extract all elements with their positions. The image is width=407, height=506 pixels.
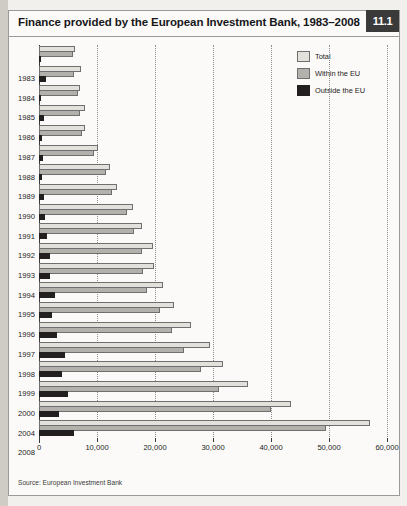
bar-within <box>39 150 94 156</box>
y-axis-label: 1985 <box>9 113 35 122</box>
x-axis-tick-label: 20,000 <box>143 443 166 452</box>
figure-panel: Finance provided by the European Investm… <box>0 0 407 506</box>
bar-outside <box>39 430 74 436</box>
bar-within <box>39 51 73 57</box>
y-axis-label: 1996 <box>9 330 35 339</box>
y-axis-label: 1983 <box>9 74 35 83</box>
page-spine <box>0 0 8 506</box>
source-note: Source: European Investment Bank <box>18 479 122 486</box>
bar-outside <box>39 115 44 121</box>
y-axis-label: 1997 <box>9 350 35 359</box>
bar-within <box>39 169 106 175</box>
bar-group <box>39 204 387 224</box>
x-axis-tick-mark <box>213 438 214 442</box>
bar-outside <box>39 352 65 358</box>
bar-outside <box>39 174 42 180</box>
bar-within <box>39 406 271 412</box>
chart-title: Finance provided by the European Investm… <box>18 16 360 28</box>
bar-outside <box>39 233 47 239</box>
x-axis-tick-label: 60,000 <box>375 443 398 452</box>
bar-group <box>39 105 387 125</box>
bar-group <box>39 322 387 342</box>
bar-outside <box>39 56 41 62</box>
x-axis-tick-label: 50,000 <box>317 443 340 452</box>
bar-group <box>39 302 387 322</box>
y-axis-label: 1989 <box>9 192 35 201</box>
x-axis-tick-mark <box>97 438 98 442</box>
x-axis-ticks: 010,00020,00030,00040,00050,00060,000 <box>39 443 387 457</box>
bar-within <box>39 228 134 234</box>
bar-group <box>39 401 387 421</box>
bar-within <box>39 307 160 313</box>
bar-group <box>39 223 387 243</box>
x-axis-tick-mark <box>387 438 388 442</box>
figure-number-badge: 11.1 <box>366 10 399 32</box>
bar-within <box>39 366 201 372</box>
bar-within <box>39 130 82 136</box>
bar-outside <box>39 155 43 161</box>
bar-group <box>39 164 387 184</box>
bar-group <box>39 85 387 105</box>
chart-card: Finance provided by the European Investm… <box>8 10 400 496</box>
bar-outside <box>39 411 59 417</box>
bar-outside <box>39 273 50 279</box>
bar-group <box>39 66 387 86</box>
bar-group <box>39 381 387 401</box>
y-axis-label: 1998 <box>9 370 35 379</box>
x-axis-tick-mark <box>39 438 40 442</box>
y-axis-label: 2008 <box>9 448 35 457</box>
x-axis-tick-mark <box>155 438 156 442</box>
bar-within <box>39 327 172 333</box>
chart-header: Finance provided by the European Investm… <box>9 11 399 37</box>
plot-area: TotalWithin the EUOutside the EU 010,000… <box>9 37 401 466</box>
y-axis-label: 1984 <box>9 94 35 103</box>
x-axis-tick-label: 30,000 <box>201 443 224 452</box>
y-axis-label: 1995 <box>9 310 35 319</box>
y-axis-label: 1987 <box>9 153 35 162</box>
bar-outside <box>39 253 50 259</box>
axis-area <box>39 45 387 439</box>
bar-group <box>39 125 387 145</box>
x-axis-tick-label: 10,000 <box>85 443 108 452</box>
gridline <box>387 45 388 439</box>
bar-outside <box>39 214 45 220</box>
bar-outside <box>39 76 46 82</box>
bar-group <box>39 342 387 362</box>
bar-within <box>39 189 112 195</box>
y-axis-label: 1991 <box>9 232 35 241</box>
x-axis-tick-label: 0 <box>37 443 41 452</box>
x-axis-tick-mark <box>329 438 330 442</box>
bar-group <box>39 184 387 204</box>
bar-group <box>39 361 387 381</box>
bar-group <box>39 282 387 302</box>
bar-outside <box>39 391 68 397</box>
bar-within <box>39 248 142 254</box>
y-axis-label: 2000 <box>9 409 35 418</box>
y-axis-label: 1993 <box>9 271 35 280</box>
bar-group <box>39 145 387 165</box>
bar-outside <box>39 194 44 200</box>
y-axis-label: 1988 <box>9 173 35 182</box>
y-axis-label: 1992 <box>9 251 35 260</box>
y-axis-label: 2004 <box>9 429 35 438</box>
bar-group <box>39 243 387 263</box>
y-axis-label: 1999 <box>9 389 35 398</box>
bar-outside <box>39 332 57 338</box>
bar-within <box>39 268 143 274</box>
x-axis-tick-mark <box>271 438 272 442</box>
bar-outside <box>39 312 52 318</box>
bar-within <box>39 209 127 215</box>
bar-within <box>39 110 80 116</box>
bar-group <box>39 46 387 66</box>
bar-outside <box>39 292 55 298</box>
x-axis-tick-label: 40,000 <box>259 443 282 452</box>
bar-outside <box>39 371 62 377</box>
bar-within <box>39 90 78 96</box>
y-axis-label: 1986 <box>9 133 35 142</box>
bar-group <box>39 263 387 283</box>
bar-outside <box>39 95 41 101</box>
bar-outside <box>39 135 42 141</box>
y-axis-label: 1994 <box>9 291 35 300</box>
y-axis-label: 1990 <box>9 212 35 221</box>
bar-within <box>39 425 326 431</box>
